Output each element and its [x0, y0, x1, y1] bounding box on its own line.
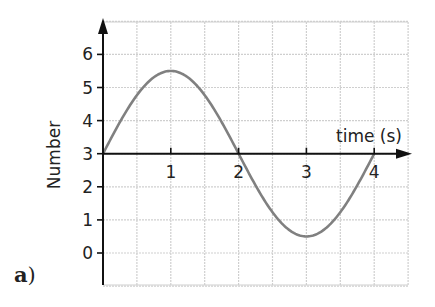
svg-text:6: 6	[82, 44, 93, 64]
svg-text:5: 5	[82, 78, 93, 98]
svg-text:4: 4	[369, 162, 380, 182]
svg-text:4: 4	[82, 111, 93, 131]
svg-text:1: 1	[165, 162, 176, 182]
svg-text:1: 1	[82, 210, 93, 230]
axes	[97, 18, 412, 285]
sine-chart: 01234561234 time (s) Number	[0, 0, 435, 307]
part-letter: a	[14, 262, 28, 287]
svg-text:2: 2	[233, 162, 244, 182]
svg-text:2: 2	[82, 177, 93, 197]
part-paren: )	[28, 263, 36, 287]
svg-text:0: 0	[82, 243, 93, 263]
y-axis-label: Number	[44, 121, 64, 189]
part-label: a)	[14, 262, 36, 287]
svg-text:3: 3	[82, 144, 93, 164]
svg-text:3: 3	[301, 162, 312, 182]
x-axis-label: time (s)	[336, 126, 402, 146]
